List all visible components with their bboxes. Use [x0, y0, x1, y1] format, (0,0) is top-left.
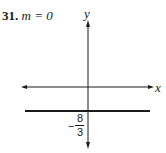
x-axis-left-arrow-icon	[21, 85, 27, 89]
x-axis-label: x	[155, 80, 161, 96]
intercept-sign: −	[68, 120, 74, 132]
intercept-numerator: 8	[77, 113, 83, 124]
y-axis	[86, 20, 90, 149]
intercept-denominator: 3	[77, 127, 83, 138]
y-intercept-label: − 8 3	[68, 113, 84, 138]
y-axis-label: y	[84, 6, 90, 22]
y-axis-down-arrow-icon	[86, 142, 90, 149]
x-axis-right-arrow-icon	[148, 85, 154, 89]
